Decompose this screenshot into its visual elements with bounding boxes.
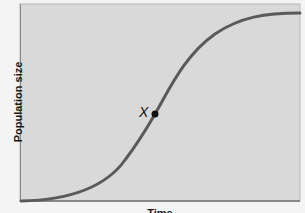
point-x-marker xyxy=(152,111,159,118)
logistic-growth-chart xyxy=(0,0,305,213)
y-axis-label: Population size xyxy=(12,42,24,162)
x-axis-label: Time xyxy=(140,207,180,213)
point-x-label: X xyxy=(139,104,148,120)
